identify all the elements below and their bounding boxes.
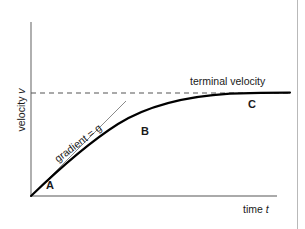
x-axis-label-text: time (243, 203, 263, 215)
point-a-label: A (46, 180, 54, 191)
point-b-label: B (141, 126, 149, 137)
y-axis-label-symbol: v (15, 88, 27, 93)
y-axis-label: velocity v (16, 88, 27, 131)
x-axis-label-symbol: t (266, 203, 269, 215)
x-axis-label: time t (243, 204, 269, 215)
y-axis-label-text: velocity (15, 97, 27, 132)
point-c-label: C (248, 99, 256, 110)
graph-canvas (0, 0, 305, 229)
velocity-time-graph-figure: terminal velocity A B C gradient = g vel… (0, 0, 305, 229)
terminal-velocity-label: terminal velocity (190, 76, 265, 87)
page-right-border (297, 0, 298, 229)
